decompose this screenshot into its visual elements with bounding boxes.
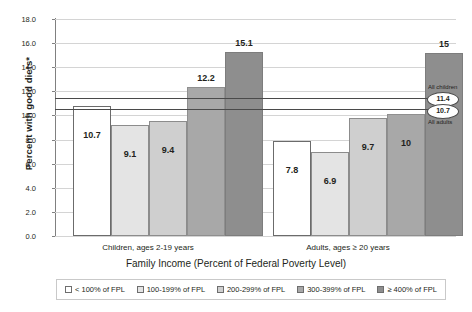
bar-adults-200-299[interactable] (349, 118, 387, 236)
bar-adults-gte400[interactable] (425, 53, 463, 236)
group-label-adults: Adults, ages ≥ 20 years (258, 243, 438, 252)
reference-line-all-children (55, 98, 456, 99)
bar-value-label: 9.4 (149, 146, 187, 155)
legend-swatch-icon (377, 286, 384, 293)
bar-value-label: 10.7 (73, 131, 111, 140)
bar-value-label: 9.7 (349, 143, 387, 152)
y-tick-label: 6.0 (2, 161, 36, 169)
bar-children-lt100[interactable] (73, 106, 111, 236)
bar-value-label: 9.1 (111, 150, 149, 159)
y-tick-label: 8.0 (2, 137, 36, 145)
legend-label: < 100% of FPL (75, 285, 125, 294)
bar-children-gte400[interactable] (225, 52, 263, 236)
y-tick-mark (52, 140, 55, 141)
y-tick-mark (52, 43, 55, 44)
y-tick-mark (52, 115, 55, 116)
bar-adults-lt100[interactable] (273, 141, 311, 236)
bar-value-label: 10 (387, 139, 425, 148)
legend-item-gte400[interactable]: ≥ 400% of FPL (377, 285, 437, 294)
legend-swatch-icon (137, 286, 144, 293)
y-axis-line (55, 18, 56, 237)
bar-value-label: 7.8 (273, 166, 311, 175)
bar-adults-300-399[interactable] (387, 114, 425, 236)
reference-label-all-adults: All adults (428, 119, 452, 125)
legend-label: 200-299% of FPL (227, 285, 285, 294)
y-tick-label: 10.0 (2, 112, 36, 120)
legend: < 100% of FPL 100-199% of FPL 200-299% o… (56, 279, 446, 300)
x-axis-title: Family Income (Percent of Federal Povert… (0, 258, 472, 269)
legend-item-200-299[interactable]: 200-299% of FPL (217, 285, 285, 294)
bar-chart: Percent with good diets* 0.0 2.0 4.0 6.0… (0, 0, 472, 312)
gridline (55, 236, 456, 237)
bar-value-label: 15 (425, 40, 463, 49)
y-tick-label: 16.0 (2, 40, 36, 48)
legend-swatch-icon (297, 286, 304, 293)
y-tick-mark (52, 67, 55, 68)
y-tick-label: 4.0 (2, 185, 36, 193)
bar-value-label: 12.2 (187, 74, 225, 83)
legend-label: 300-399% of FPL (307, 285, 365, 294)
y-tick-label: 2.0 (2, 209, 36, 217)
legend-label: ≥ 400% of FPL (387, 285, 437, 294)
gridline (55, 19, 456, 20)
legend-swatch-icon (217, 286, 224, 293)
y-tick-mark (52, 188, 55, 189)
group-label-children: Children, ages 2-19 years (58, 243, 238, 252)
legend-swatch-icon (65, 286, 72, 293)
y-tick-label: 12.0 (2, 88, 36, 96)
y-tick-mark (52, 164, 55, 165)
y-tick-mark (52, 212, 55, 213)
plot-area: 0.0 2.0 4.0 6.0 8.0 10.0 12.0 14.0 16.0 … (55, 18, 456, 237)
legend-item-300-399[interactable]: 300-399% of FPL (297, 285, 365, 294)
y-tick-label: 18.0 (2, 16, 36, 24)
bar-children-100-199[interactable] (111, 125, 149, 236)
y-tick-mark (52, 236, 55, 237)
bar-value-label: 6.9 (311, 177, 349, 186)
legend-item-100-199[interactable]: 100-199% of FPL (137, 285, 205, 294)
reference-value-all-adults: 10.7 (427, 104, 459, 119)
y-tick-label: 14.0 (2, 64, 36, 72)
bar-children-200-299[interactable] (149, 121, 187, 236)
legend-item-lt100[interactable]: < 100% of FPL (65, 285, 125, 294)
y-tick-label: 0.0 (2, 233, 36, 241)
y-tick-mark (52, 91, 55, 92)
bar-adults-100-199[interactable] (311, 152, 349, 236)
y-tick-mark (52, 19, 55, 20)
bar-value-label: 15.1 (225, 39, 263, 48)
reference-line-all-adults (55, 109, 456, 110)
reference-label-all-children: All children (428, 84, 457, 90)
legend-label: 100-199% of FPL (147, 285, 205, 294)
